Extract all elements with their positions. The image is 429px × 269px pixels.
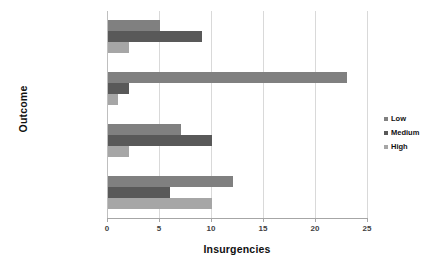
- x-tick-label: 5: [144, 224, 174, 233]
- gridline: [263, 11, 264, 218]
- bar: [108, 72, 347, 83]
- bar: [108, 124, 181, 135]
- legend-label: Low: [391, 114, 406, 123]
- gridline: [211, 11, 212, 218]
- gridline: [315, 11, 316, 218]
- legend-item: High: [384, 142, 419, 151]
- x-axis-tick: [211, 218, 212, 222]
- x-tick-label: 0: [92, 224, 122, 233]
- bar: [108, 20, 160, 31]
- legend-item: Low: [384, 114, 419, 123]
- legend-swatch-icon: [384, 145, 388, 149]
- legend-label: Medium: [391, 128, 419, 137]
- legend-swatch-icon: [384, 131, 388, 135]
- x-tick-label: 15: [248, 224, 278, 233]
- x-axis-tick: [315, 218, 316, 222]
- bar-chart: Outcome Insurgencies LowMediumHigh 05101…: [0, 0, 429, 269]
- y-axis-title: Outcome: [17, 69, 29, 149]
- legend-swatch-icon: [384, 117, 388, 121]
- x-tick-label: 10: [196, 224, 226, 233]
- x-tick-label: 25: [352, 224, 382, 233]
- chart-legend: LowMediumHigh: [384, 114, 419, 151]
- plot-area: [107, 11, 367, 218]
- legend-label: High: [391, 142, 408, 151]
- bar: [108, 31, 202, 42]
- x-axis-line: [107, 218, 368, 219]
- bar: [108, 135, 212, 146]
- x-tick-label: 20: [300, 224, 330, 233]
- x-axis-title: Insurgencies: [107, 243, 367, 255]
- legend-item: Medium: [384, 128, 419, 137]
- x-axis-tick: [159, 218, 160, 222]
- x-axis-tick: [263, 218, 264, 222]
- gridline: [367, 11, 368, 218]
- x-axis-tick: [367, 218, 368, 222]
- bar: [108, 146, 129, 157]
- bar: [108, 176, 233, 187]
- x-axis-tick: [107, 218, 108, 222]
- bar: [108, 83, 129, 94]
- bar: [108, 94, 118, 105]
- bar: [108, 187, 170, 198]
- bar: [108, 198, 212, 209]
- bar: [108, 42, 129, 53]
